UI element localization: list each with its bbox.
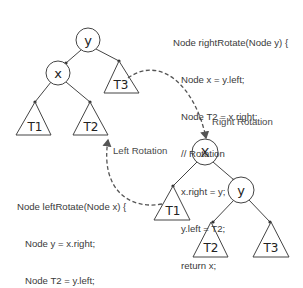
- node-x-top: x: [46, 61, 70, 85]
- node-y-top: y: [76, 28, 100, 52]
- code-line: Node x = y.left;: [173, 74, 288, 86]
- code-line: x.right = y;: [173, 186, 288, 198]
- code-line: return x;: [173, 260, 288, 272]
- code-line: Node rightRotate(Node y) {: [173, 37, 288, 49]
- code-line: Node T2 = y.left;: [17, 275, 126, 287]
- code-line: Node y = x.right;: [17, 238, 126, 250]
- svg-text:x: x: [54, 66, 62, 81]
- subtree-t1-top: T1: [16, 102, 51, 135]
- edge-y-x: [66, 50, 81, 63]
- right-rotation-label: Right Rotation: [212, 116, 273, 127]
- svg-text:y: y: [84, 33, 92, 48]
- right-rotate-code: Node rightRotate(Node y) { Node x = y.le…: [173, 12, 288, 288]
- top-tree: y x T1 T2 T3: [16, 28, 139, 135]
- left-rotation-label: Left Rotation: [113, 145, 167, 156]
- edge-x-t1: [35, 82, 51, 102]
- svg-text:T1: T1: [27, 120, 43, 134]
- svg-text:T2: T2: [83, 120, 99, 134]
- code-line: y.left = T2;: [173, 223, 288, 235]
- left-rotate-code: Node leftRotate(Node x) { Node y = x.rig…: [17, 176, 126, 288]
- edge-x-t2: [66, 82, 90, 102]
- code-line: // Rotation: [173, 148, 288, 160]
- svg-text:T3: T3: [113, 78, 129, 92]
- subtree-t3-top: T3: [104, 61, 139, 93]
- code-line: Node leftRotate(Node x) {: [17, 201, 126, 213]
- edge-y-t3: [96, 49, 119, 61]
- subtree-t2-top: T2: [73, 102, 108, 135]
